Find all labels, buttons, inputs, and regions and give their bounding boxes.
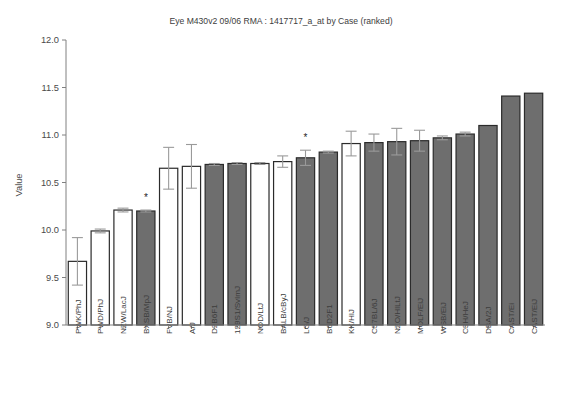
bar-D2B6F1[interactable] (205, 164, 223, 325)
x-label-NZO/HlLtJ: NZO/HlLtJ (393, 296, 402, 334)
x-label-CAST/EiJ: CAST/EiJ (530, 299, 539, 334)
y-tick-label: 9.5 (46, 273, 59, 283)
bar-DBA/2J[interactable] (479, 126, 497, 326)
bar-NOD/LtJ[interactable] (251, 164, 269, 326)
y-tick-label: 10.5 (41, 178, 59, 188)
x-label-WSB/EiJ: WSB/EiJ (439, 302, 448, 334)
bar-LG/J[interactable] (296, 158, 314, 325)
bar-C3H/HeJ[interactable] (456, 134, 474, 325)
x-label-DBA/2J: DBA/2J (484, 307, 493, 334)
x-label-NZW/LacJ: NZW/LacJ (119, 296, 128, 334)
x-label-C57BL/6J: C57BL/6J (370, 298, 379, 334)
x-label-KK/HlJ: KK/HlJ (347, 309, 356, 334)
x-label-MOLF/EiJ: MOLF/EiJ (416, 298, 425, 334)
x-label-D2B6F1: D2B6F1 (210, 304, 219, 334)
x-label-C3H/HeJ: C3H/HeJ (461, 301, 470, 334)
x-label-FVB/NJ: FVB/NJ (165, 306, 174, 334)
x-label-BXSB/MpJ: BXSB/MpJ (142, 295, 151, 334)
bar-MOLF/EiJ[interactable] (410, 141, 428, 325)
bar-CAST/Ei[interactable] (502, 96, 520, 325)
x-label-129S1/SvImJ: 129S1/SvImJ (233, 286, 242, 334)
bar-WSB/EiJ[interactable] (433, 138, 451, 325)
y-tick-label: 10.0 (41, 225, 59, 235)
bar-CAST/EiJ[interactable] (524, 93, 542, 325)
bar-chart-svg: Eye M430v2 09/06 RMA : 1417717_a_at by C… (0, 0, 562, 404)
chart-title: Eye M430v2 09/06 RMA : 1417717_a_at by C… (169, 16, 392, 26)
significance-marker-BXSB/MpJ: * (144, 192, 148, 203)
y-tick-label: 12.0 (41, 35, 59, 45)
y-tick-label: 11.5 (42, 83, 59, 93)
x-label-NOD/LtJ: NOD/LtJ (256, 303, 265, 334)
x-label-A/J: A/J (188, 322, 197, 334)
y-tick-label: 9.0 (46, 320, 59, 330)
y-axis-title: Value (14, 173, 24, 196)
bar-KK/HlJ[interactable] (342, 144, 360, 325)
x-label-PWD/PhJ: PWD/PhJ (96, 299, 105, 334)
x-label-B6D2F1: B6D2F1 (325, 304, 334, 334)
chart-container: Eye M430v2 09/06 RMA : 1417717_a_at by C… (0, 0, 562, 404)
x-label-BALB/cByJ: BALB/cByJ (279, 294, 288, 335)
bar-B6D2F1[interactable] (319, 152, 337, 325)
bar-C57BL/6J[interactable] (365, 143, 383, 325)
y-tick-label: 11.0 (42, 130, 59, 140)
x-label-PWK/PhJ: PWK/PhJ (74, 299, 83, 334)
x-label-CAST/Ei: CAST/Ei (507, 303, 516, 334)
bar-FVB/NJ[interactable] (160, 168, 178, 325)
significance-marker-LG/J: * (304, 132, 308, 143)
bar-A/J[interactable] (182, 166, 200, 325)
